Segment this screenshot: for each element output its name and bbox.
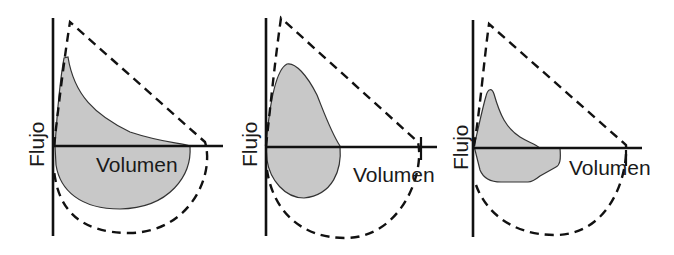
flow-volume-diagram-1: Volumen Flujo <box>0 0 225 255</box>
y-axis-label: Flujo <box>238 121 261 167</box>
flow-volume-panel-1: Volumen Flujo <box>0 0 225 255</box>
x-axis-label: Volumen <box>569 156 651 179</box>
flow-volume-panel-3: Volumen Flujo <box>440 0 674 255</box>
measured-loop <box>474 90 560 182</box>
measured-loop <box>55 57 190 209</box>
measured-loop <box>266 64 340 198</box>
x-axis-label: Volumen <box>353 163 435 186</box>
flow-volume-diagram-2: Volumen Flujo <box>225 0 450 255</box>
y-axis-label: Flujo <box>449 124 472 170</box>
flow-volume-panel-2: Volumen Flujo <box>225 0 450 255</box>
flow-volume-diagram-3: Volumen Flujo <box>440 0 674 255</box>
y-axis-label: Flujo <box>25 121 48 167</box>
x-axis-label: Volumen <box>96 153 178 176</box>
